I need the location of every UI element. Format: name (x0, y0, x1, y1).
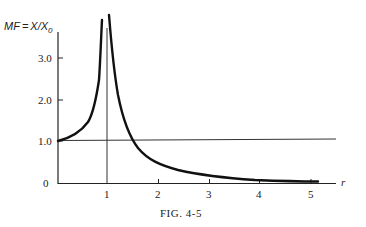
y-tick-label-0: 0 (43, 177, 49, 189)
mf-curve-right-branch (109, 15, 318, 182)
chart: MF=X/X0 0 1.0 2.0 3.0 1 2 3 4 5 r FIG. 4… (0, 0, 366, 227)
x-tick-label-5: 5 (308, 188, 314, 200)
x-tick-label-1: 1 (104, 188, 110, 200)
x-tick-label-2: 2 (155, 188, 161, 200)
y-tick-label-3: 3.0 (38, 52, 52, 64)
y-ticks (58, 58, 63, 141)
reference-line-mf-1 (58, 139, 336, 141)
y-tick-label-1: 1.0 (38, 135, 52, 147)
figure-caption: FIG. 4-5 (160, 207, 202, 219)
x-axis-label: r (341, 176, 346, 188)
x-tick-label-3: 3 (206, 188, 212, 200)
y-tick-label-2: 2.0 (38, 94, 52, 106)
mf-curve-left-branch (58, 20, 102, 141)
y-axis-label: MF=X/X0 (4, 20, 53, 35)
x-tick-label-4: 4 (256, 188, 262, 200)
